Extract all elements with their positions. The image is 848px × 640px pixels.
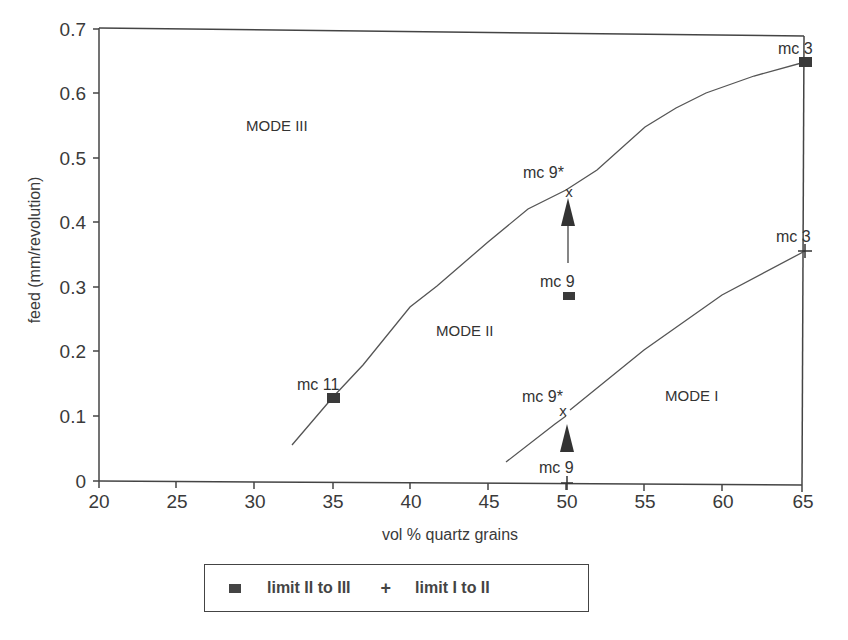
marker-x-mc9-upper: x — [565, 183, 573, 200]
x-tick-label: 35 — [322, 491, 343, 512]
y-tick-label: 0.4 — [60, 212, 87, 233]
marker-square-mc3 — [799, 57, 812, 67]
x-axis — [99, 481, 802, 485]
x-tick-label: 40 — [400, 491, 421, 512]
square-marker-icon — [229, 584, 241, 593]
label-mc9-star-lower: mc 9* — [522, 388, 563, 405]
label-mode-2: MODE II — [436, 322, 494, 339]
y-tick-label: 0.6 — [60, 83, 86, 104]
x-axis-title: vol % quartz grains — [382, 526, 518, 543]
y-tick-label: 0.7 — [60, 19, 86, 40]
y-axis-title: feed (mm/revolution) — [26, 177, 43, 324]
y-tick-label: 0.2 — [60, 341, 86, 362]
right-border — [802, 36, 804, 485]
x-tick-labels: 20 25 30 35 40 45 50 55 60 65 — [88, 491, 813, 512]
label-mc9-star-upper: mc 9* — [523, 164, 564, 181]
label-mc9-upper: mc 9 — [540, 273, 575, 290]
legend-label: limit I to II — [415, 579, 490, 597]
label-mode-3: MODE III — [246, 117, 308, 134]
legend: limit II to III + limit I to II — [204, 564, 589, 612]
curve-limit-1-to-2 — [506, 416, 566, 462]
legend-item-limit-1-to-2: + limit I to II — [351, 578, 490, 599]
x-tick-label: 45 — [478, 491, 499, 512]
arrow-mc9-lower — [560, 424, 574, 452]
label-mc11: mc 11 — [297, 376, 339, 393]
y-tick-label: 0.3 — [60, 277, 86, 298]
legend-label: limit II to III — [267, 579, 351, 597]
y-tick-label: 0.5 — [60, 148, 86, 169]
y-tick-label: 0.1 — [60, 406, 86, 427]
x-tick-label: 55 — [634, 491, 655, 512]
x-tick-label: 30 — [244, 491, 265, 512]
top-border — [99, 28, 804, 36]
marker-square-mc9 — [563, 292, 575, 300]
x-tick-label: 50 — [556, 491, 577, 512]
arrow-mc9-upper — [561, 198, 575, 263]
marker-plus-mc3 — [798, 244, 812, 258]
chart: 0 0.1 0.2 0.3 0.4 0.5 0.6 0.7 20 25 30 3… — [0, 0, 848, 560]
label-mc9-lower: mc 9 — [539, 459, 574, 476]
plus-marker-icon: + — [381, 578, 392, 599]
label-mc3-upper: mc 3 — [778, 40, 813, 57]
label-mc3-lower: mc 3 — [776, 228, 811, 245]
label-mode-1: MODE I — [665, 387, 718, 404]
y-ticks — [93, 29, 99, 481]
y-tick-labels: 0 0.1 0.2 0.3 0.4 0.5 0.6 0.7 — [60, 19, 87, 492]
x-tick-label: 60 — [712, 491, 733, 512]
legend-item-limit-2-to-3: limit II to III — [229, 579, 351, 597]
marker-plus-mc9 — [561, 476, 573, 490]
x-tick-label: 65 — [792, 491, 813, 512]
y-tick-label: 0 — [75, 471, 86, 492]
x-tick-label: 25 — [166, 491, 187, 512]
marker-square-mc11 — [327, 393, 340, 403]
x-tick-label: 20 — [88, 491, 109, 512]
